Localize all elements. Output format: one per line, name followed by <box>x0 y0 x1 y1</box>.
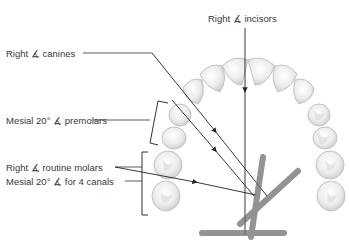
label-right-angle-routine-molars: Right ∡ routine molars <box>6 162 103 173</box>
label-mesial-premolars: Mesial 20° ∡ premolars <box>6 115 107 126</box>
tooth-shading <box>161 110 337 202</box>
tooth-arch <box>152 58 345 211</box>
label-mesial-four-canals: Mesial 20° ∡ for 4 canals <box>6 176 114 187</box>
film-holders <box>202 157 298 237</box>
dental-arch-diagram: Right ∡ incisors Right ∡ canines Mesial … <box>0 0 349 249</box>
label-right-angle-incisors: Right ∡ incisors <box>208 13 277 24</box>
label-right-angle-canines: Right ∡ canines <box>6 48 75 59</box>
